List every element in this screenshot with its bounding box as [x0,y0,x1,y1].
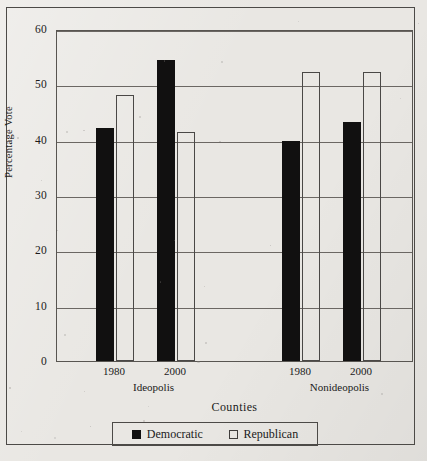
scan-speck [270,245,271,246]
gridline-60 [57,31,412,32]
y-tick-label-60: 60 [35,24,47,36]
bar-republican-2 [177,132,195,361]
scan-speck [9,387,10,388]
scan-speck [57,230,58,231]
scan-speck [298,21,299,22]
scan-artifact [11,435,311,445]
x-year-label-1: 1980 [103,366,125,377]
x-axis-title: Counties [56,400,413,415]
x-axis-group-labels: IdeopolisNonideopolis [56,382,413,396]
scan-speck [197,361,199,363]
x-axis-year-labels: 1980200019802000 [56,366,413,380]
y-axis-tick-labels: 6050403020100 [7,30,51,362]
bar-democratic-3 [282,141,300,361]
bar-democratic-1 [96,128,114,362]
scan-speck [418,23,419,24]
x-group-label-nonideopolis: Nonideopolis [310,382,369,393]
y-tick-label-0: 0 [41,356,47,368]
bar-republican-3 [302,72,320,361]
y-tick-label-20: 20 [35,246,47,258]
figure-frame: Percentage Vote 6050403020100 1980200019… [6,7,415,445]
bar-republican-4 [363,72,381,361]
plot-area [56,30,413,362]
x-group-label-ideopolis: Ideopolis [133,382,174,393]
bar-republican-1 [116,95,134,361]
scan-speck [205,342,207,344]
scan-speck [21,431,22,432]
bar-democratic-2 [157,60,175,361]
y-tick-label-10: 10 [35,301,47,313]
scan-speck [83,130,85,132]
scan-speck [400,98,401,99]
gridline-50 [57,86,412,87]
x-year-label-4: 2000 [350,366,372,377]
page-background: Percentage Vote 6050403020100 1980200019… [0,0,427,461]
y-tick-label-30: 30 [35,190,47,202]
y-tick-label-50: 50 [35,80,47,92]
x-year-label-3: 1980 [289,366,311,377]
scan-speck [90,426,91,427]
x-year-label-2: 2000 [164,366,186,377]
scan-speck [221,61,223,63]
scan-speck [17,137,19,139]
bar-democratic-4 [343,122,361,361]
y-tick-label-40: 40 [35,135,47,147]
